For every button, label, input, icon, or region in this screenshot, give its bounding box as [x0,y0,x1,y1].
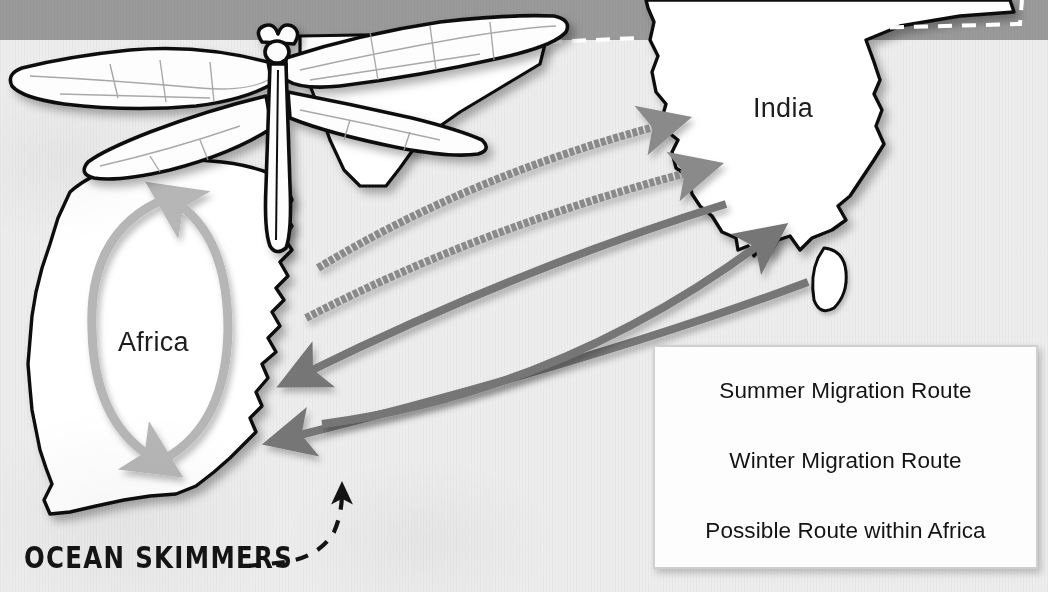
ocean-skimmers-caption: OCEAN SKIMMERS [24,540,293,575]
legend-arrow-summer [703,361,988,377]
migration-map-figure: Africa India Summer Migration R [0,0,1048,592]
map-label-india: India [753,93,813,124]
legend-item-possible: Possible Route within Africa [655,501,1036,544]
legend-label-possible: Possible Route within Africa [655,518,1036,544]
legend-item-summer: Summer Migration Route [655,361,1036,404]
map-label-africa: Africa [118,327,189,358]
migration-legend: Summer Migration Route Winter Migration … [653,345,1038,569]
legend-arrow-winter [703,431,988,447]
legend-label-summer: Summer Migration Route [655,378,1036,404]
legend-item-winter: Winter Migration Route [655,431,1036,474]
legend-arrow-possible [703,501,988,517]
legend-label-winter: Winter Migration Route [655,448,1036,474]
